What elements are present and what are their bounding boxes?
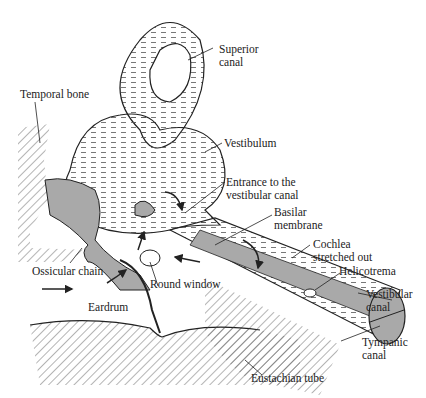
round-window: [140, 250, 160, 266]
helicotrema: [304, 289, 316, 297]
label-tympanic-canal: Tympanic canal: [362, 336, 408, 361]
label-basilar-membrane: Basilar membrane: [274, 206, 323, 231]
label-entrance: Entrance to the vestibular canal: [226, 176, 298, 201]
label-round-window: Round window: [150, 278, 221, 291]
label-temporal-bone: Temporal bone: [20, 88, 89, 101]
label-eustachian-tube: Eustachian tube: [251, 372, 324, 385]
label-eardrum: Eardrum: [88, 301, 128, 314]
label-cochlea: Cochlea stretched out: [313, 238, 372, 263]
label-ossicular-chain: Ossicular chain: [32, 265, 103, 278]
label-helicotrema: Helicotrema: [339, 265, 396, 278]
label-vestibulum: Vestibulum: [224, 137, 276, 150]
label-vestibular-canal: Vestibular canal: [366, 288, 413, 313]
label-superior-canal: Superior canal: [219, 43, 259, 68]
